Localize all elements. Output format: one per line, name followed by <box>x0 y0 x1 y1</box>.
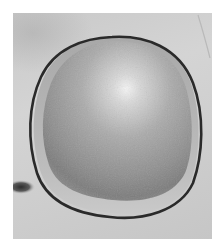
photo-canvas <box>13 13 212 239</box>
skin-streak <box>198 15 210 58</box>
photograph <box>13 13 212 239</box>
dark-spot <box>13 180 35 194</box>
lesion-texture <box>43 41 192 201</box>
